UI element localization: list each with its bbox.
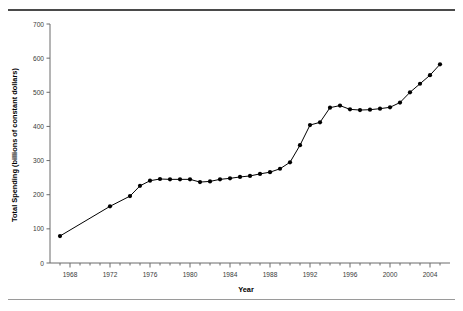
x-tick-label: 1980	[183, 271, 198, 278]
line-chart: 0100200300400500600700 19681972197619801…	[0, 0, 463, 311]
data-point	[378, 107, 382, 111]
x-tick-label: 1988	[263, 271, 278, 278]
x-tick-label: 1992	[303, 271, 318, 278]
y-tick-label: 400	[33, 123, 44, 130]
data-point	[108, 204, 112, 208]
data-point	[368, 108, 372, 112]
data-point	[398, 100, 402, 104]
data-point	[258, 172, 262, 176]
x-tick-label: 2000	[383, 271, 398, 278]
data-point	[128, 194, 132, 198]
data-point	[248, 174, 252, 178]
y-axis: 0100200300400500600700	[33, 21, 50, 267]
data-point	[328, 106, 332, 110]
data-point	[208, 179, 212, 183]
data-point	[338, 104, 342, 108]
y-tick-label: 300	[33, 157, 44, 164]
data-point	[218, 177, 222, 181]
x-tick-label: 1984	[223, 271, 238, 278]
data-point	[358, 108, 362, 112]
x-axis-title: Year	[238, 285, 254, 294]
data-point	[238, 175, 242, 179]
data-series-total-spending	[58, 62, 442, 238]
series-line	[60, 64, 440, 236]
data-point	[418, 82, 422, 86]
y-tick-label: 100	[33, 225, 44, 232]
x-tick-label: 1996	[343, 271, 358, 278]
data-point	[268, 170, 272, 174]
data-point	[198, 180, 202, 184]
data-point	[158, 177, 162, 181]
x-tick-label: 1976	[143, 271, 158, 278]
x-tick-label: 2004	[423, 271, 438, 278]
y-tick-label: 600	[33, 55, 44, 62]
data-point	[318, 120, 322, 124]
data-point	[428, 73, 432, 77]
y-tick-label: 700	[33, 21, 44, 28]
x-axis: 1968197219761980198419881992199620002004	[50, 263, 450, 278]
data-point	[288, 160, 292, 164]
data-point	[178, 177, 182, 181]
data-point	[148, 179, 152, 183]
data-point	[308, 123, 312, 127]
data-point	[348, 107, 352, 111]
y-tick-label: 200	[33, 191, 44, 198]
data-point	[298, 143, 302, 147]
data-point	[278, 167, 282, 171]
data-point	[58, 234, 62, 238]
y-axis-title: Total Spending (billions of constant dol…	[10, 68, 19, 222]
data-point	[138, 184, 142, 188]
y-tick-label: 500	[33, 89, 44, 96]
x-tick-label: 1968	[63, 271, 78, 278]
data-point	[168, 177, 172, 181]
y-tick-label: 0	[40, 260, 44, 267]
data-point	[188, 177, 192, 181]
data-point	[408, 90, 412, 94]
chart-plot-area: 0100200300400500600700 19681972197619801…	[0, 0, 463, 311]
data-point	[388, 105, 392, 109]
x-tick-label: 1972	[103, 271, 118, 278]
data-point	[438, 62, 442, 66]
figure-container: 0100200300400500600700 19681972197619801…	[0, 0, 463, 311]
data-point	[228, 176, 232, 180]
